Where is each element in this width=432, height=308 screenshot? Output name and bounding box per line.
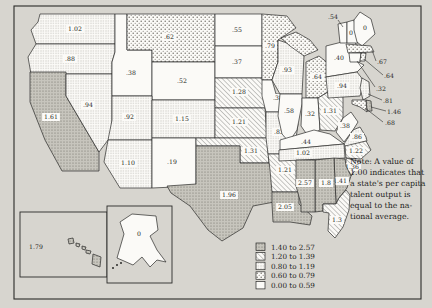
- state-value-la: 2.05: [278, 203, 292, 210]
- state-value-in: .32: [305, 110, 315, 117]
- state-value-il: .58: [284, 107, 294, 114]
- talent-map-figure: 1.02.881.61.94.38.62.52.921.151.10.19.55…: [0, 0, 432, 308]
- note-line: tional average.: [350, 212, 409, 221]
- state-value-ks: 1.21: [232, 118, 246, 125]
- note-line: talent output is: [350, 190, 411, 199]
- callout-value-ma: .67: [377, 58, 387, 65]
- callout-value-nj: .81: [383, 97, 393, 104]
- callout-value-ri: .64: [384, 72, 394, 79]
- legend: 1.40 to 2.571.20 to 1.390.80 to 1.190.60…: [256, 243, 315, 290]
- callout-value-vt: .54: [328, 13, 338, 20]
- state-value-me: 0: [363, 24, 367, 31]
- state-value-wv: .38: [340, 122, 350, 129]
- note-line: equal to the na-: [350, 201, 412, 210]
- state-value-ar: 1.21: [278, 166, 292, 173]
- legend-label-b3: 0.80 to 1.19: [271, 262, 315, 271]
- figure-page: 1.02.881.61.94.38.62.52.921.151.10.19.55…: [0, 0, 432, 308]
- state-value-co: 1.15: [175, 115, 189, 122]
- state-value-ny: .40: [334, 54, 344, 61]
- state-value-nh: 0: [349, 29, 353, 36]
- state-value-mi: .64: [312, 73, 322, 80]
- leader-de: [371, 107, 386, 111]
- state-value-ky: .44: [301, 138, 311, 145]
- legend-swatch-b5: [256, 281, 265, 289]
- state-value-tx: 1.96: [222, 191, 236, 198]
- state-value-oh: 1.31: [323, 107, 337, 114]
- leader-md: [365, 108, 383, 122]
- state-value-ms: 2.57: [298, 179, 312, 186]
- state-value-az: 1.10: [121, 159, 135, 166]
- state-value-wi: .93: [282, 66, 292, 73]
- state-value-pa: .94: [337, 82, 347, 89]
- note-line: 1.00 indicates that: [350, 168, 425, 177]
- legend-swatch-b2: [256, 253, 265, 261]
- leader-nj: [368, 94, 382, 100]
- state-value-al: 1.8: [321, 179, 331, 186]
- state-value-nc: 1.22: [349, 147, 363, 154]
- state-value-ak: 0: [137, 230, 141, 237]
- state-value-ca: 1.61: [44, 113, 58, 120]
- state-value-ok: 1.31: [244, 147, 258, 154]
- legend-swatch-b4: [256, 272, 265, 280]
- us-map: 1.02.881.61.94.38.62.52.921.151.10.19.55…: [28, 12, 375, 241]
- legend-label-b5: 0.00 to 0.59: [271, 281, 315, 290]
- state-vt: [338, 22, 347, 43]
- callout-value-md: .68: [385, 119, 395, 126]
- state-nj: [360, 78, 370, 100]
- legend-label-b1: 1.40 to 2.57: [271, 243, 315, 252]
- note-line: Note: A value of: [350, 157, 415, 166]
- state-value-sd: .37: [232, 58, 242, 65]
- state-value-mn: .79: [265, 42, 275, 49]
- state-value-wy: .52: [177, 77, 187, 84]
- state-value-va: .86: [352, 133, 362, 140]
- state-value-id: .38: [126, 69, 136, 76]
- callout-value-de: 1.46: [387, 108, 401, 115]
- legend-swatch-b1: [256, 243, 265, 251]
- state-value-nd: .55: [232, 26, 242, 33]
- state-value-hi: 1.79: [29, 243, 43, 250]
- state-value-nm: .19: [167, 158, 177, 165]
- state-ma: [346, 44, 374, 53]
- state-md: [352, 100, 367, 112]
- aleutian-dot: [116, 264, 118, 266]
- state-ct: [349, 53, 361, 62]
- state-value-wa: 1.02: [68, 25, 82, 32]
- callout-value-ct: .32: [376, 85, 386, 92]
- note-text: Note: A value of1.00 indicates thata sta…: [350, 157, 426, 221]
- state-value-ut: .92: [124, 113, 134, 120]
- aleutian-dot: [120, 262, 122, 264]
- state-value-ne: 1.28: [232, 88, 246, 95]
- legend-label-b4: 0.60 to 0.79: [271, 271, 315, 280]
- legend-swatch-b3: [256, 262, 265, 270]
- note-line: a state's per capita: [350, 179, 426, 188]
- state-value-fl: 1.3: [332, 216, 342, 223]
- state-value-or: .88: [65, 55, 75, 62]
- state-value-tn: 1.02: [296, 149, 310, 156]
- state-value-nv: .94: [83, 101, 93, 108]
- aleutian-dot: [112, 267, 114, 269]
- state-value-mt: .62: [164, 33, 174, 40]
- legend-label-b2: 1.20 to 1.39: [271, 252, 315, 261]
